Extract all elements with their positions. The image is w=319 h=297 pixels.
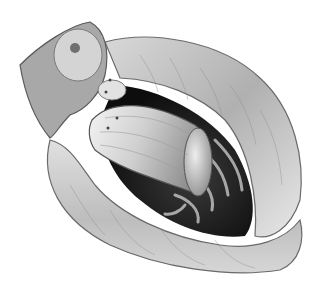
- illustration-canvas: [0, 0, 319, 297]
- pouch-dimple: [70, 43, 80, 53]
- anatomical-illustration: [0, 0, 319, 297]
- small-lobe: [98, 80, 126, 100]
- pouch-bulge: [54, 29, 102, 81]
- mass-end: [184, 128, 212, 196]
